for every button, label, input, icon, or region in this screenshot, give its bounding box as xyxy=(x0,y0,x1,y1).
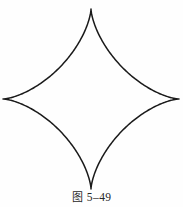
figure-caption-number: 5–49 xyxy=(87,191,112,203)
figure-caption-label: 图 xyxy=(72,191,83,204)
figure-page: 图 5–49 xyxy=(0,0,183,207)
astroid-curve-figure xyxy=(0,0,183,193)
figure-background xyxy=(0,0,183,193)
figure-caption: 图 5–49 xyxy=(0,190,183,205)
